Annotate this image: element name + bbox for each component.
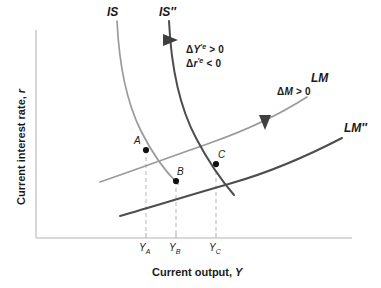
delta-r-relation: < 0 [206,58,221,69]
point-b-dot [173,178,179,184]
tick-yb-sub: B [176,248,181,255]
delta-r-superscript: ′e [197,57,203,64]
delta-y-relation: > 0 [209,44,224,55]
y-axis-title-text: Current interest rate, [15,93,27,205]
x-tick-label-yb: YB [169,243,180,255]
tick-yc-sub: C [216,248,221,255]
delta-m-relation: > 0 [296,86,311,97]
tick-yb-base: Y [169,242,176,253]
point-label-b: B [177,167,184,177]
is-lm-diagram: IS IS″ LM LM″ A B C ΔY′e > 0 Δr′e < 0 ΔM… [0,0,381,288]
tick-ya-sub: A [146,248,151,255]
x-axis-title-text: Current output, [152,266,235,278]
x-axis-title-symbol: Y [235,266,242,278]
curve-label-is: IS [107,6,118,18]
delta-m-variable: M [284,86,293,97]
y-axis-title: Current interest rate, r [16,89,27,205]
point-label-a: A [134,136,141,146]
curve-label-lm: LM [311,72,328,84]
annotation-delta-m: ΔM > 0 [277,87,311,97]
point-c-dot [213,161,219,167]
tick-ya-base: Y [139,242,146,253]
x-tick-label-yc: YC [209,243,221,255]
curve-is [117,21,178,184]
y-axis-title-symbol: r [15,89,27,93]
curve-label-lm-shifted: LM″ [344,122,367,134]
curve-lm [100,97,307,182]
x-axis-title: Current output, Y [152,267,242,278]
curve-lm-shifted [120,138,342,216]
x-tick-label-ya: YA [139,243,150,255]
point-label-c: C [218,150,225,160]
curve-label-is-shifted: IS″ [159,6,176,18]
tick-yc-base: Y [209,242,216,253]
annotation-delta-y: ΔY′e > 0 [186,43,224,55]
point-a-dot [143,147,149,153]
annotation-delta-r: Δr′e < 0 [186,57,221,69]
delta-y-superscript: ′e [200,43,206,50]
